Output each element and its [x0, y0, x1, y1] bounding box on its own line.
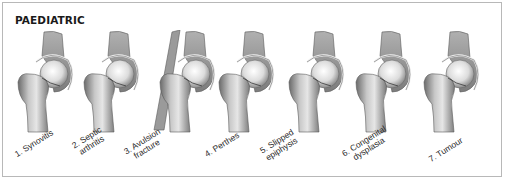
- hip-illustration-congenital-dysplasia: [352, 30, 424, 135]
- hip-illustration-synovitis: [14, 30, 86, 135]
- hip-illustration-septic-arthritis: [80, 30, 152, 135]
- hip-illustration-tumour: [420, 30, 492, 135]
- figure-title: PAEDIATRIC: [15, 14, 85, 26]
- hip-illustration-slipped-epiphysis: [285, 30, 357, 135]
- hip-illustration-avulsion-fracture: [150, 30, 222, 135]
- hip-illustration-perthes: [215, 30, 287, 135]
